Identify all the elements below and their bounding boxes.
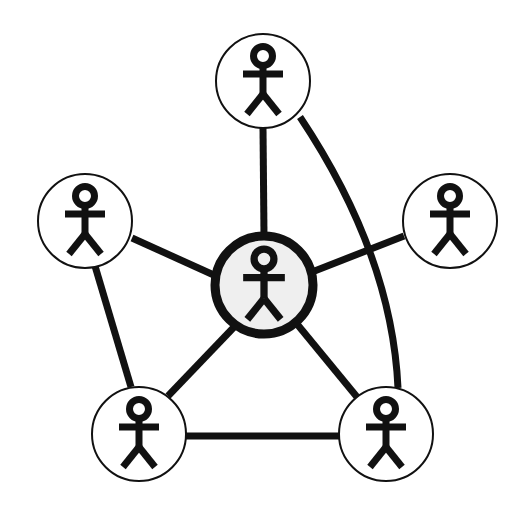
edge-center-top [263, 128, 264, 236]
node-right[interactable]: right-person [403, 174, 497, 268]
edge-center-right [312, 236, 404, 272]
network-diagram-canvas: center-persontop-personleft-personright-… [0, 0, 519, 511]
node-center[interactable]: center-person [215, 236, 313, 334]
network-graph: center-persontop-personleft-personright-… [0, 0, 519, 511]
nodes-layer: center-persontop-personleft-personright-… [38, 34, 497, 481]
edge-center-bottom-right [297, 324, 357, 397]
node-top[interactable]: top-person [216, 34, 310, 128]
node-bottom-right[interactable]: bottom-right-person [339, 387, 433, 481]
edge-center-left [132, 238, 216, 276]
edge-center-bottom-left [168, 325, 236, 396]
node-left[interactable]: left-person [38, 174, 132, 268]
edge-left-bottom-left [95, 266, 131, 387]
node-bottom-left[interactable]: bottom-left-person [92, 387, 186, 481]
